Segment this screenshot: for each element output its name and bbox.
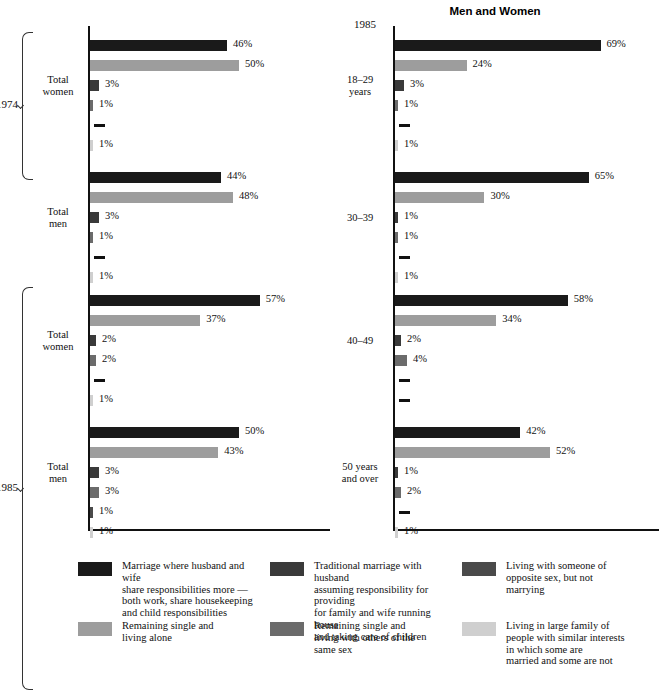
bar-row	[395, 252, 635, 263]
bar-value-label: 1%	[99, 393, 113, 404]
right-top-year-label: 1985	[354, 18, 376, 30]
bar-row: 4%	[395, 355, 635, 366]
bar	[90, 232, 93, 243]
bar-value-label: 46%	[233, 38, 252, 49]
bar	[90, 100, 93, 111]
bar-row: 58%	[395, 295, 635, 306]
bar-row: 3%	[90, 467, 330, 478]
bar-value-label: 57%	[266, 293, 285, 304]
bar-value-label: 1%	[404, 230, 418, 241]
bar	[90, 335, 96, 346]
bar	[90, 272, 93, 283]
legend-swatch	[270, 562, 304, 576]
bar	[90, 527, 93, 538]
bar-row	[90, 252, 330, 263]
bar-row: 65%	[395, 172, 635, 183]
bar-row	[395, 395, 635, 406]
bar-row: 1%	[395, 212, 635, 223]
bar-row: 57%	[90, 295, 330, 306]
bar	[90, 140, 93, 151]
bar-value-label: 3%	[105, 78, 119, 89]
bar	[94, 256, 105, 259]
row-category-label: Total men	[32, 206, 84, 230]
bar	[90, 395, 93, 406]
bar-value-label: 34%	[502, 313, 521, 324]
bar-value-label: 1%	[99, 138, 113, 149]
bar-row: 52%	[395, 447, 635, 458]
bar	[90, 355, 96, 366]
bar	[395, 335, 401, 346]
bar-row: 1%	[395, 140, 635, 151]
bar-row: 34%	[395, 315, 635, 326]
bar	[399, 399, 410, 402]
bar-value-label: 3%	[410, 78, 424, 89]
bar-row: 1%	[90, 232, 330, 243]
bar	[94, 124, 105, 127]
legend-swatch	[462, 562, 496, 576]
bar-row	[395, 507, 635, 518]
bar-row	[395, 375, 635, 386]
bar	[90, 212, 99, 223]
legend-label: Living with someone of opposite sex, but…	[506, 560, 607, 595]
bar-value-label: 1%	[99, 230, 113, 241]
bar-value-label: 48%	[239, 190, 258, 201]
legend-label: Remaining single and living alone	[122, 620, 214, 644]
bar	[395, 527, 398, 538]
bar	[395, 172, 589, 183]
bar	[90, 507, 93, 518]
bar	[399, 511, 410, 514]
row-category-label: 30–39	[330, 212, 390, 224]
bar-row: 37%	[90, 315, 330, 326]
bar	[90, 295, 260, 306]
bar-value-label: 65%	[595, 170, 614, 181]
bar	[395, 355, 407, 366]
bar	[90, 40, 227, 51]
bar-value-label: 1%	[404, 210, 418, 221]
bar	[395, 315, 496, 326]
bar-row: 1%	[90, 100, 330, 111]
row-category-label: 50 years and over	[330, 461, 390, 485]
bar-value-label: 1%	[404, 138, 418, 149]
bar	[94, 379, 105, 382]
legend-swatch	[462, 622, 496, 636]
bar	[90, 487, 99, 498]
legend-label: Marriage where husband and wife share re…	[122, 560, 258, 619]
row-category-label: Total women	[32, 74, 84, 98]
bar-value-label: 50%	[245, 58, 264, 69]
bar-value-label: 1%	[404, 525, 418, 536]
bar	[90, 192, 233, 203]
legend-label: Living in large family of people with si…	[506, 620, 625, 667]
legend-swatch	[78, 562, 112, 576]
bar	[395, 192, 484, 203]
bar	[90, 427, 239, 438]
bar-value-label: 50%	[245, 425, 264, 436]
legend-swatch	[270, 622, 304, 636]
bar-value-label: 1%	[404, 465, 418, 476]
bar-row: 46%	[90, 40, 330, 51]
bar-row: 1%	[90, 527, 330, 538]
bar-row	[90, 120, 330, 131]
row-category-label: Total men	[32, 461, 84, 485]
bar-value-label: 52%	[556, 445, 575, 456]
bar	[90, 60, 239, 71]
legend-label: Remaining single and living with others …	[314, 620, 415, 655]
bar-value-label: 3%	[105, 465, 119, 476]
row-category-label: Total women	[32, 329, 84, 353]
bar-row: 3%	[90, 212, 330, 223]
bar	[90, 447, 218, 458]
bar	[90, 315, 200, 326]
bar-value-label: 1%	[99, 98, 113, 109]
bar-value-label: 58%	[574, 293, 593, 304]
bar-row: 1%	[395, 232, 635, 243]
bar-row: 1%	[90, 395, 330, 406]
bar	[399, 256, 410, 259]
bar-value-label: 1%	[99, 525, 113, 536]
bar	[395, 212, 398, 223]
bar-row: 1%	[90, 272, 330, 283]
bar	[399, 124, 410, 127]
year-label: 1985	[0, 481, 18, 493]
bar-value-label: 44%	[227, 170, 246, 181]
bar-value-label: 3%	[105, 210, 119, 221]
bar-row: 48%	[90, 192, 330, 203]
right-panel: 1985 69%24%3%1%1%65%30%1%1%1%58%34%2%4%4…	[330, 0, 659, 545]
